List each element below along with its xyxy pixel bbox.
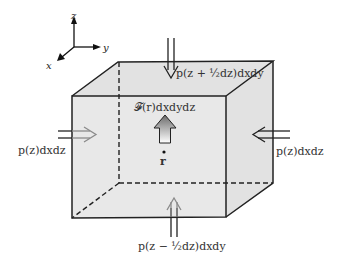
- fluid-element-diagram: z y x: [0, 0, 340, 264]
- y-axis-label: y: [102, 42, 109, 53]
- top-force-label: p(z + ½dz)dxdy: [176, 67, 264, 80]
- y-axis-arrowhead-icon: [93, 44, 101, 50]
- x-axis-arrowhead-icon: [57, 53, 65, 61]
- position-label: r: [160, 155, 166, 168]
- z-axis-label: z: [70, 10, 77, 21]
- bottom-force-label: p(z − ½dz)dxdy: [138, 240, 226, 253]
- position-point: [162, 150, 165, 153]
- right-force-label: p(z)dxdz: [276, 145, 324, 158]
- x-axis: [62, 47, 74, 57]
- left-force-label: p(z)dxdz: [18, 144, 66, 157]
- fluid-element-box: [72, 61, 273, 218]
- body-force-label: 𝓕(r)dxdydz: [134, 101, 195, 114]
- x-axis-label: x: [46, 60, 52, 71]
- coordinate-axes: z y x: [46, 10, 109, 71]
- box-front-face: [72, 96, 226, 218]
